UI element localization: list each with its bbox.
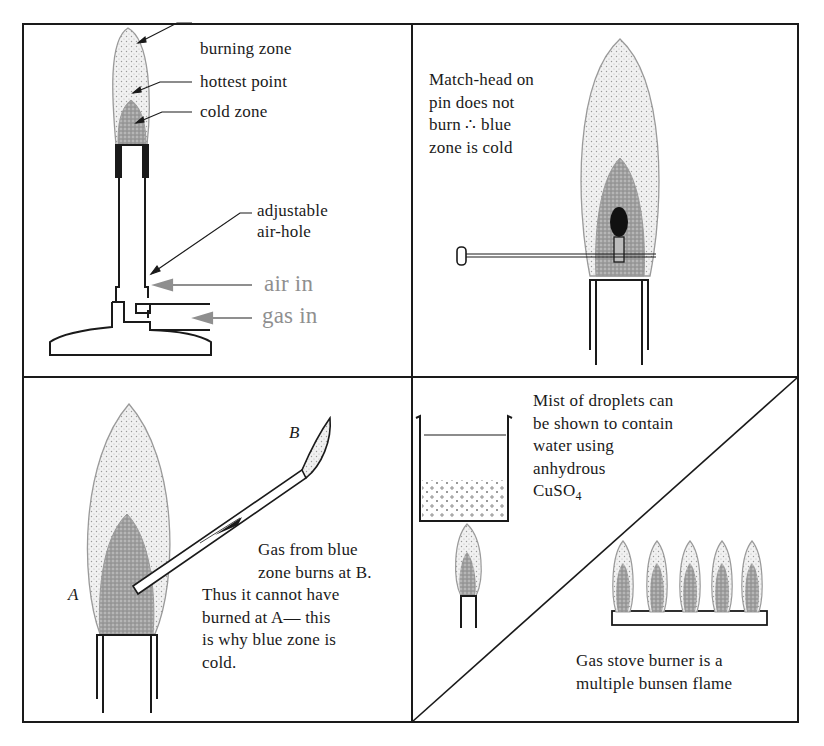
- label-cold-zone: cold zone: [200, 101, 267, 123]
- tube-experiment-caption: Gas from blue zone burns at B. Thus it c…: [202, 539, 402, 674]
- match-head: [610, 207, 628, 237]
- caption-line: zone burns at B.: [202, 562, 402, 585]
- caption-line: zone is cold: [429, 137, 534, 160]
- formula-subscript: 4: [575, 489, 581, 503]
- gas-stove-diagram: [612, 541, 767, 625]
- label-burning-zone: burning zone: [200, 38, 292, 60]
- caption-line: Thus it cannot have: [202, 584, 402, 607]
- match-head-caption: Match-head on pin does not burn ∴ blue z…: [429, 69, 534, 159]
- label-air-in: air in: [264, 271, 313, 297]
- caption-line: pin does not: [429, 92, 534, 115]
- caption-line: anhydrous: [533, 458, 673, 481]
- formula-main: CuSO: [533, 481, 575, 500]
- point-b-label: B: [289, 422, 300, 444]
- caption-line: burn ∴ blue: [429, 114, 534, 137]
- caption-line: is why blue zone is: [202, 629, 402, 652]
- label-air-hole: air-hole: [257, 221, 311, 243]
- caption-line: Gas from blue: [202, 539, 402, 562]
- point-a-label: A: [68, 584, 79, 606]
- diagram-canvas: [0, 0, 824, 746]
- beaker-caption: Mist of droplets can be shown to contain…: [533, 390, 673, 508]
- stove-caption: Gas stove burner is a multiple bunsen fl…: [576, 650, 732, 695]
- caption-line: be shown to contain: [533, 413, 673, 436]
- caption-line: burned at A— this: [202, 607, 402, 630]
- cuso4-formula: CuSO4: [533, 480, 673, 508]
- label-adjustable: adjustable: [257, 200, 328, 222]
- beaker-diagram: [416, 416, 512, 628]
- label-hottest-point: hottest point: [200, 71, 287, 93]
- caption-line: Mist of droplets can: [533, 390, 673, 413]
- caption-line: Match-head on: [429, 69, 534, 92]
- caption-line: water using: [533, 435, 673, 458]
- label-gas-in: gas in: [262, 303, 318, 329]
- caption-line: Gas stove burner is a: [576, 650, 732, 673]
- caption-line: cold.: [202, 652, 402, 675]
- caption-line: multiple bunsen flame: [576, 673, 732, 696]
